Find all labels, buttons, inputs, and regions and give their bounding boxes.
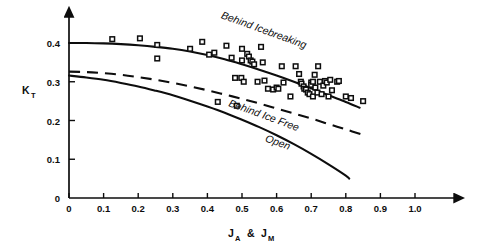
data-point-marker <box>207 52 212 57</box>
y-tick-label: 0.2 <box>47 116 60 127</box>
data-point-marker <box>188 47 193 52</box>
data-point-marker <box>288 94 293 99</box>
y-axis-title-base: K <box>22 84 30 96</box>
x-tick-label: 0.2 <box>132 203 145 214</box>
data-point-marker <box>281 80 286 85</box>
x-tick-label: 0.6 <box>270 203 283 214</box>
x-axis-title-ja-sub: A <box>235 234 241 243</box>
data-point-marker <box>319 92 324 97</box>
data-point-marker <box>337 79 342 84</box>
data-point-marker <box>255 79 260 84</box>
data-point-marker <box>240 58 245 63</box>
y-axis-title: K T <box>22 84 36 100</box>
x-tick-label: 0 <box>66 203 71 214</box>
data-point-marker <box>252 62 257 67</box>
data-point-marker <box>297 72 302 77</box>
x-tick-label: 0.4 <box>201 203 215 214</box>
x-axis-title: J A & J M <box>228 227 274 243</box>
data-point-marker <box>311 79 316 84</box>
behind-ice-free-label: Behind Ice Free <box>227 96 301 133</box>
data-point-marker <box>313 85 318 90</box>
data-point-marker <box>229 55 234 60</box>
data-point-marker <box>215 100 220 105</box>
data-point-marker <box>361 99 366 104</box>
data-point-marker <box>260 60 265 65</box>
open-label: Open <box>264 132 292 152</box>
x-axis-title-jm-sub: M <box>268 234 274 243</box>
data-point-marker <box>240 47 245 52</box>
data-point-marker <box>316 64 321 69</box>
data-point-marker <box>330 88 335 93</box>
x-tick-label: 1.0 <box>408 203 421 214</box>
y-axis-title-sub: T <box>31 91 36 100</box>
x-axis-title-amp: & <box>247 227 255 239</box>
data-point-marker <box>200 40 205 45</box>
x-axis-ticks: 00.10.20.30.40.50.60.70.80.91.0 <box>66 193 421 214</box>
data-point-marker <box>279 64 284 69</box>
data-point-marker <box>155 43 160 48</box>
y-tick-label: 0.4 <box>47 38 61 49</box>
x-tick-label: 0.7 <box>305 203 318 214</box>
x-tick-label: 0.5 <box>235 203 249 214</box>
data-point-marker <box>138 36 143 41</box>
x-tick-label: 0.9 <box>374 203 387 214</box>
y-tick-label: 0 <box>55 193 60 204</box>
x-axis-title-jm-base: J <box>261 227 267 239</box>
data-point-marker <box>326 94 331 99</box>
data-point-marker <box>155 56 160 61</box>
y-axis-ticks: 00.10.20.30.4 <box>47 38 75 204</box>
x-axis-title-ja-base: J <box>228 227 234 239</box>
chart-figure: 00.10.20.30.40.50.60.70.80.91.0 00.10.20… <box>0 0 490 248</box>
data-point-marker <box>259 45 264 50</box>
y-tick-label: 0.3 <box>47 77 60 88</box>
y-tick-label: 0.1 <box>47 154 61 165</box>
data-point-marker <box>241 79 246 84</box>
data-point-marker <box>233 76 238 81</box>
data-point-marker <box>312 72 317 77</box>
data-point-marker <box>224 43 229 48</box>
chart-canvas: 00.10.20.30.40.50.60.70.80.91.0 00.10.20… <box>0 0 490 248</box>
data-point-marker <box>344 94 349 99</box>
x-tick-label: 0.8 <box>339 203 352 214</box>
data-point-marker <box>293 64 298 69</box>
data-point-marker <box>212 50 217 55</box>
data-point-marker <box>276 86 281 91</box>
data-point-marker <box>110 37 115 42</box>
x-tick-label: 0.3 <box>166 203 179 214</box>
data-point-marker <box>349 96 354 101</box>
x-tick-label: 0.1 <box>97 203 111 214</box>
data-point-marker <box>262 78 267 83</box>
data-point-marker <box>328 78 333 83</box>
data-point-marker <box>266 86 271 91</box>
behind-icebreaking-label: Behind Icebreaking <box>220 9 309 51</box>
